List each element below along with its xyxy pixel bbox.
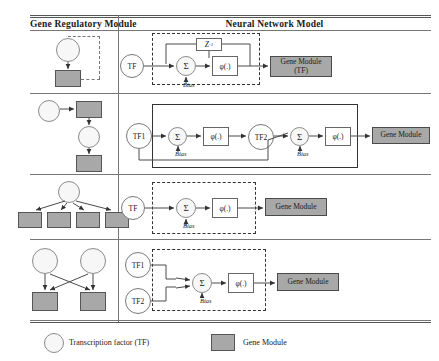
row2-module-b (76, 155, 102, 172)
row4-module-1 (32, 292, 58, 311)
row-separator-3 (30, 239, 431, 240)
row1-bias-label: Bias (183, 81, 195, 88)
row2-bias-label-1: Bias (175, 150, 187, 157)
row2-tf2-node: TF2 (248, 124, 274, 150)
row1-sigma-label: Σ (183, 61, 188, 71)
row3-output-module: Gene Module (265, 198, 327, 216)
row2-sigma-1: Σ (175, 132, 180, 142)
row4-activation-box: φ(.) (228, 273, 254, 293)
legend-circle-icon (44, 333, 64, 353)
row4-summation-node: Σ (192, 273, 212, 293)
row3-tf-circle (58, 181, 80, 203)
figure-canvas: Gene Regulatory Module Neural Network Mo… (0, 0, 439, 361)
legend-label-tf: Transcription factor (TF) (69, 338, 149, 347)
column-header-right: Neural Network Model (118, 19, 431, 29)
row1-feedback-bottom (81, 79, 100, 80)
row4-sigma-label: Σ (199, 278, 204, 288)
row-separator-1 (30, 93, 431, 94)
row3-nn-boundary (152, 182, 256, 234)
row4-module-2 (80, 292, 106, 311)
row1-tf-node: TF (120, 54, 144, 78)
row1-feedback-right (99, 36, 100, 79)
table-bottom-rule (30, 322, 431, 323)
row3-module-2 (47, 212, 71, 228)
row2-tf2-circle (78, 126, 100, 148)
row2-module-a (76, 101, 102, 118)
row2-tf1-node: TF1 (126, 123, 152, 149)
row-separator-4 (30, 320, 431, 321)
row4-tf1-node: TF1 (125, 252, 151, 278)
row2-summation-node-2: Σ (290, 127, 309, 146)
row2-bias-label-2: Bias (297, 150, 309, 157)
row2-sigma-2: Σ (297, 132, 302, 142)
row3-summation-node: Σ (176, 198, 196, 218)
row1-gene-module-square (55, 70, 81, 87)
row3-tf-node: TF (121, 196, 145, 220)
row1-feedback-top (68, 36, 100, 37)
row3-sigma-label: Σ (183, 203, 188, 213)
row3-activation-box: φ(.) (212, 198, 238, 218)
legend-square-icon (211, 334, 235, 351)
row2-summation-node-1: Σ (168, 127, 187, 146)
row-separator-2 (30, 174, 431, 175)
row4-output-module: Gene Module (277, 273, 339, 291)
table-top-rule-inner (30, 17, 431, 18)
row4-bias-label: Bias (200, 297, 212, 304)
table-header-rule (30, 30, 431, 31)
column-header-left: Gene Regulatory Module (30, 19, 118, 29)
row3-bias-label: Bias (183, 222, 195, 229)
row1-tf-circle (56, 38, 80, 62)
table-top-rule-outer (30, 15, 431, 16)
row2-output-module: Gene Module (372, 127, 430, 144)
row4-tf2-circle (80, 248, 106, 274)
row1-activation-box: φ(.) (212, 56, 238, 76)
row4-tf1-circle (32, 248, 58, 274)
legend-label-module: Gene Module (243, 338, 287, 347)
row1-output-module: Gene Module (TF) (270, 56, 332, 77)
row2-activation-box-2: φ(.) (325, 127, 351, 146)
row3-module-3 (76, 212, 100, 228)
row3-module-1 (18, 212, 42, 228)
row1-delay-box: Z-1 (196, 38, 222, 51)
row1-summation-node: Σ (176, 56, 196, 76)
column-divider (118, 15, 119, 322)
row1-delay-exponent: -1 (209, 42, 213, 47)
row4-tf2-node: TF2 (125, 288, 151, 314)
row2-tf1-circle (38, 100, 60, 122)
row1-output-sublabel: (TF) (294, 67, 308, 76)
row2-activation-box-1: φ(.) (203, 127, 229, 146)
